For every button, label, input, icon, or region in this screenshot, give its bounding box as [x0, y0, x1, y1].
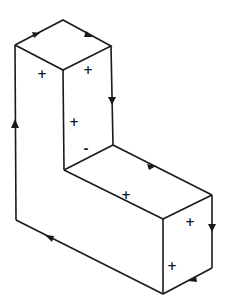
edge-top-diamond	[15, 20, 111, 70]
arrow-bottom-left-icon	[45, 235, 54, 242]
arrow-top-left-edge-icon	[32, 32, 40, 38]
sign-front-right-face-lower: +	[167, 259, 177, 273]
l-shape-diagram: + + + - + + +	[0, 0, 227, 308]
sign-front-right-face-upper: +	[185, 215, 195, 229]
sign-inner-vertical-face-lower: -	[84, 142, 89, 156]
edge-right-column	[111, 46, 113, 145]
outline	[15, 20, 212, 294]
edge-lower-top-front	[64, 170, 163, 219]
arrow-far-right-icon	[208, 224, 216, 232]
edge-bottom-left	[16, 220, 163, 294]
arrow-right-column-icon	[108, 97, 116, 105]
sign-inner-vertical-face: +	[69, 115, 79, 129]
sign-top-right-face: +	[83, 63, 93, 77]
arrow-bottom-right-icon	[188, 276, 197, 282]
edge-front-column	[63, 70, 64, 170]
sign-top-left-face: +	[37, 67, 47, 81]
arrow-left-edge-icon	[11, 119, 19, 128]
sign-lower-top-face: +	[121, 188, 131, 202]
face-signs: + + + - + + +	[37, 63, 195, 273]
edge-inner-left	[64, 145, 113, 170]
edge-left-vertical	[15, 45, 16, 220]
